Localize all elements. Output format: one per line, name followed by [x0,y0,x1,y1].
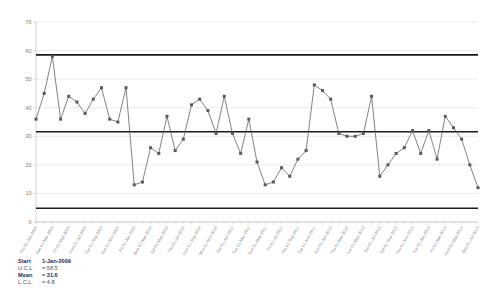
data-point [427,129,430,132]
legend-key: Mean [18,272,42,279]
legend-key: Start [18,258,42,265]
data-point [305,149,308,152]
data-point [59,118,62,121]
data-point [378,175,381,178]
legend-value: = 58.5 [42,265,58,271]
data-point [313,83,316,86]
data-point [403,146,406,149]
x-axis-labels: Thu 01-Jan-2009Sun 01-Mar-2009Fri 01-May… [18,222,480,257]
data-point [256,161,259,164]
data-point [75,101,78,104]
legend-key: L.C.L. [18,279,42,286]
y-tick-label: 0 [29,219,32,225]
data-point [198,98,201,101]
legend-row: U.C.L= 58.5 [18,265,71,272]
data-point [296,158,299,161]
data-point [215,132,218,135]
data-point [395,152,398,155]
data-point [444,115,447,118]
data-point [247,118,250,121]
data-point [231,132,234,135]
data-point [280,166,283,169]
data-point [174,149,177,152]
data-point [100,86,103,89]
data-point [141,181,144,184]
y-tick-label: 60 [26,48,32,54]
data-point [149,146,152,149]
data-point [288,175,291,178]
data-point [337,132,340,135]
x-tick-label: Mon 01-Jul-2013 [461,225,481,255]
y-tick-label: 10 [26,190,32,196]
data-point [51,55,54,58]
legend-value: = 4.8 [42,279,55,285]
data-point [452,126,455,129]
data-point [264,183,267,186]
legend-value: 1-Jan-2009 [42,258,71,264]
data-point [468,163,471,166]
legend-value: = 31.6 [42,272,58,278]
data-point [370,95,373,98]
data-point [190,103,193,106]
data-point [84,112,87,115]
data-point [346,135,349,138]
data-point [329,98,332,101]
y-tick-label: 40 [26,105,32,111]
y-tick-label: 30 [26,133,32,139]
y-tick-label: 50 [26,76,32,82]
data-point [35,118,38,121]
data-point [165,115,168,118]
data-point [206,109,209,112]
data-point [272,181,275,184]
data-point [354,135,357,138]
data-point [108,118,111,121]
chart-canvas: 010203040506070Thu 01-Jan-2009Sun 01-Mar… [0,0,484,298]
data-point [92,98,95,101]
data-point [157,152,160,155]
legend-row: Mean= 31.6 [18,272,71,279]
y-tick-label: 70 [26,19,32,25]
control-chart: 010203040506070Thu 01-Jan-2009Sun 01-Mar… [0,0,484,298]
x-tick-label: Fri 01-Jul-2011 [266,225,284,252]
legend-row: L.C.L.= 4.8 [18,279,71,286]
legend-row: Start1-Jan-2009 [18,258,71,265]
data-point [477,186,480,189]
data-point [362,132,365,135]
data-point [223,95,226,98]
data-point [133,183,136,186]
legend-key: U.C.L [18,265,42,272]
data-point [239,152,242,155]
data-point [419,152,422,155]
gridlines [36,22,478,222]
data-point [411,129,414,132]
data-point [125,86,128,89]
data-markers [35,55,480,189]
data-point [321,89,324,92]
y-tick-label: 20 [26,162,32,168]
data-line [36,56,478,187]
data-point [182,138,185,141]
data-point [116,121,119,124]
data-point [43,92,46,95]
chart-legend: Start1-Jan-2009U.C.L= 58.5Mean= 31.6L.C.… [18,258,71,286]
y-axis-labels: 010203040506070 [26,19,37,225]
data-point [67,95,70,98]
data-point [436,158,439,161]
data-point [386,163,389,166]
data-point [460,138,463,141]
